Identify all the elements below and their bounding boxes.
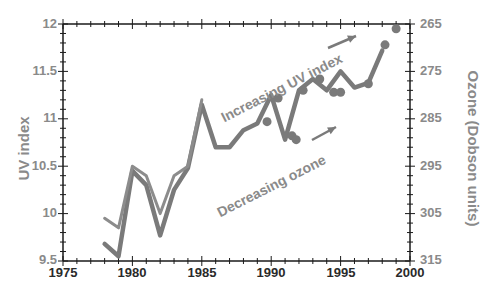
x-tick-label: 1995	[321, 265, 361, 280]
y-tick-label: 12	[17, 16, 57, 31]
y-tick-label: 10	[17, 205, 57, 220]
ozone-line	[105, 51, 383, 257]
y-right-tick-label: 265	[420, 16, 460, 31]
uv-data-point	[392, 24, 401, 33]
uv-data-point	[364, 79, 373, 88]
x-tick-label: 1990	[251, 265, 291, 280]
x-tick-label: 1975	[43, 265, 83, 280]
y-right-axis-title: Ozone (Dobson units)	[465, 44, 482, 254]
uv-data-point	[381, 40, 390, 49]
y-right-tick-label: 275	[420, 63, 460, 78]
x-tick-label: 2000	[390, 265, 430, 280]
x-tick-label: 1980	[112, 265, 152, 280]
uv-data-point	[336, 88, 345, 97]
x-tick-label: 1985	[182, 265, 222, 280]
y-right-tick-label: 305	[420, 205, 460, 220]
y-right-tick-label: 295	[420, 158, 460, 173]
uv-data-point	[263, 117, 272, 126]
uv-data-point	[292, 135, 301, 144]
y-tick-label: 11.5	[17, 63, 57, 78]
y-axis-title: UV index	[15, 104, 32, 194]
y-right-tick-label: 285	[420, 110, 460, 125]
